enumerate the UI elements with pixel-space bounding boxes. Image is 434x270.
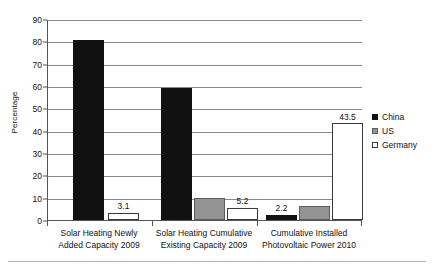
bar-us-group3[interactable] bbox=[299, 206, 330, 221]
legend-item-germany[interactable]: Germany bbox=[372, 138, 417, 152]
x-tick-3 bbox=[361, 221, 362, 226]
germany-swatch-icon bbox=[372, 142, 378, 148]
bottom-divider bbox=[8, 261, 426, 262]
bar-value-label-germany-group1: 3.1 bbox=[118, 201, 130, 211]
legend-label-china: China bbox=[382, 112, 404, 122]
y-tick-label-10: 10 bbox=[0, 194, 42, 204]
y-tick-label-0: 0 bbox=[0, 216, 42, 226]
x-category-label-1-line1: Solar Heating Newly bbox=[43, 228, 155, 240]
x-category-label-2: Solar Heating Cumulative Existing Capaci… bbox=[148, 228, 260, 251]
y-tick-label-40: 40 bbox=[0, 127, 42, 137]
bar-china-group2[interactable] bbox=[161, 88, 192, 220]
y-tick-label-50: 50 bbox=[0, 104, 42, 114]
x-category-label-1-line2: Added Capacity 2009 bbox=[43, 240, 155, 252]
bar-germany-group1[interactable] bbox=[108, 213, 139, 220]
legend-item-us[interactable]: US bbox=[372, 124, 417, 138]
bar-value-label-germany-group3: 43.5 bbox=[339, 112, 356, 122]
y-tick-label-20: 20 bbox=[0, 171, 42, 181]
x-category-label-3-line1: Cumulative Installed bbox=[253, 228, 365, 240]
bar-germany-group3[interactable] bbox=[332, 123, 363, 220]
us-swatch-icon bbox=[372, 128, 378, 134]
bar-us-group2[interactable] bbox=[194, 198, 225, 220]
bar-group-solar-heating-cumulative-existing: 58.9 5.2 bbox=[153, 20, 258, 220]
bar-germany-group2[interactable] bbox=[227, 208, 258, 220]
x-tick-1 bbox=[152, 221, 153, 226]
china-swatch-icon bbox=[372, 114, 378, 120]
x-tick-0 bbox=[47, 221, 48, 226]
bar-value-label-china-group1: 80.5 bbox=[80, 184, 97, 194]
chart-legend: China US Germany bbox=[372, 110, 417, 152]
x-category-label-3: Cumulative Installed Photovoltaic Power … bbox=[253, 228, 365, 251]
y-tick-label-70: 70 bbox=[0, 60, 42, 70]
bar-group-solar-heating-newly-added: 80.5 3.1 bbox=[48, 20, 153, 220]
x-category-label-2-line1: Solar Heating Cumulative bbox=[148, 228, 260, 240]
legend-label-germany: Germany bbox=[382, 140, 417, 150]
legend-item-china[interactable]: China bbox=[372, 110, 417, 124]
bar-value-label-germany-group2: 5.2 bbox=[237, 196, 249, 206]
bar-chart: Percentage 90 80 70 60 50 40 30 20 10 0 bbox=[0, 0, 434, 270]
x-category-label-3-line2: Photovoltaic Power 2010 bbox=[253, 240, 365, 252]
bar-group-cumulative-installed-photovoltaic: 2.2 43.5 bbox=[258, 20, 363, 220]
y-tick-label-30: 30 bbox=[0, 149, 42, 159]
y-tick-label-60: 60 bbox=[0, 82, 42, 92]
x-category-label-1: Solar Heating Newly Added Capacity 2009 bbox=[43, 228, 155, 251]
x-tick-2 bbox=[257, 221, 258, 226]
x-category-label-2-line2: Existing Capacity 2009 bbox=[148, 240, 260, 252]
bar-value-label-china-group2: 58.9 bbox=[168, 136, 185, 146]
bar-china-group3[interactable] bbox=[266, 215, 297, 220]
legend-label-us: US bbox=[382, 126, 394, 136]
bar-value-label-china-group3: 2.2 bbox=[276, 203, 288, 213]
y-tick-label-90: 90 bbox=[0, 15, 42, 25]
y-tick-label-80: 80 bbox=[0, 37, 42, 47]
plot-area: 80.5 3.1 58.9 5.2 2.2 43.5 bbox=[47, 20, 362, 221]
